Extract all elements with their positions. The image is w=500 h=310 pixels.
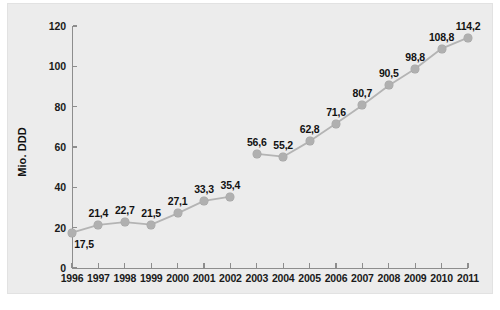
y-axis-tick-label: 100 (49, 60, 66, 72)
x-axis-tick-label: 1996 (61, 272, 84, 284)
data-point-label: 98,8 (405, 51, 425, 63)
y-axis-tick-label: 80 (55, 101, 66, 113)
y-axis-tick (73, 25, 77, 26)
x-axis-tick (203, 263, 204, 268)
x-axis-tick-label: 1997 (87, 272, 110, 284)
data-point-marker (385, 81, 393, 89)
data-point-marker (147, 221, 155, 229)
y-axis-tick (73, 187, 77, 188)
x-axis-tick-label: 2002 (219, 272, 242, 284)
x-axis-tick-label: 2004 (272, 272, 295, 284)
data-point-marker (279, 153, 287, 161)
x-axis-tick (362, 263, 363, 268)
y-axis-tick-label: 20 (55, 222, 66, 234)
data-point-marker (358, 101, 366, 109)
y-axis-tick-label: 60 (55, 141, 66, 153)
data-point-label: 80,7 (353, 87, 373, 99)
data-point-label: 62,8 (300, 123, 320, 135)
data-point-marker (94, 221, 102, 229)
data-point-label: 55,2 (273, 139, 293, 151)
y-axis-tick (73, 267, 77, 268)
data-point-marker (200, 197, 208, 205)
y-axis-tick-label: 40 (55, 181, 66, 193)
data-point-label: 114,2 (456, 20, 481, 32)
data-point-marker (411, 65, 419, 73)
x-axis-tick (283, 263, 284, 268)
x-axis-tick-label: 2007 (351, 272, 374, 284)
data-point-label: 35,4 (221, 179, 241, 191)
x-axis-tick (124, 263, 125, 268)
y-axis-tick-label: 120 (49, 20, 66, 32)
y-axis-tick (73, 106, 77, 107)
x-axis-tick-label: 2008 (378, 272, 401, 284)
data-point-marker (226, 193, 234, 201)
x-axis-tick-label: 2005 (298, 272, 321, 284)
data-point-marker (438, 45, 446, 53)
y-axis-tick (73, 66, 77, 67)
data-point-marker (332, 120, 340, 128)
y-axis-tick (73, 227, 77, 228)
data-point-label: 17,5 (74, 238, 94, 250)
x-axis-tick (177, 263, 178, 268)
plot-area: Mio. DDD 020406080100120 199619971998199… (8, 4, 492, 293)
data-point-marker (68, 229, 76, 237)
x-axis-tick (309, 263, 310, 268)
x-axis-tick-label: 2011 (457, 272, 479, 284)
x-axis-tick (441, 263, 442, 268)
x-axis-tick (335, 263, 336, 268)
data-point-marker (253, 150, 261, 158)
data-point-label: 33,3 (194, 183, 214, 195)
x-axis-tick-label: 2003 (246, 272, 269, 284)
data-point-label: 71,6 (326, 106, 346, 118)
x-axis-tick (388, 263, 389, 268)
data-point-marker (121, 218, 129, 226)
x-axis-tick-label: 2010 (430, 272, 453, 284)
y-axis-tick (73, 146, 77, 147)
x-axis-tick-label: 2006 (325, 272, 348, 284)
data-point-marker (306, 137, 314, 145)
data-point-marker (464, 34, 472, 42)
x-axis-tick-label: 2009 (404, 272, 427, 284)
y-axis-title: Mio. DDD (16, 127, 28, 177)
x-axis-tick (256, 263, 257, 268)
x-axis-tick (98, 263, 99, 268)
x-axis-tick (71, 263, 72, 268)
data-point-label: 21,5 (141, 207, 161, 219)
x-axis-line (72, 268, 468, 269)
data-point-label: 108,8 (429, 31, 454, 43)
x-axis-tick (230, 263, 231, 268)
x-axis-tick-label: 1999 (140, 272, 163, 284)
data-point-label: 27,1 (168, 195, 188, 207)
x-axis-tick-label: 2000 (166, 272, 189, 284)
chart-figure: Mio. DDD 020406080100120 199619971998199… (8, 4, 492, 293)
x-axis-tick-label: 1998 (114, 272, 137, 284)
x-axis-tick-label: 2001 (193, 272, 216, 284)
x-axis-tick (415, 263, 416, 268)
data-point-label: 21,4 (89, 207, 109, 219)
data-point-label: 56,6 (247, 136, 267, 148)
data-point-label: 90,5 (379, 67, 399, 79)
x-axis-tick (151, 263, 152, 268)
data-point-marker (174, 209, 182, 217)
data-point-label: 22,7 (115, 204, 135, 216)
x-axis-tick (467, 263, 468, 268)
